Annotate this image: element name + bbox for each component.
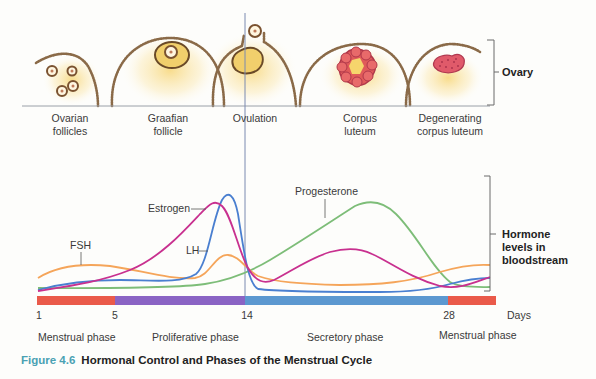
tick-day-5: 5 <box>112 309 118 321</box>
estrogen-label: Estrogen <box>148 202 190 215</box>
tick-day-14: 14 <box>241 309 253 321</box>
phase-bar-proliferative <box>115 296 245 305</box>
graafian-follicle <box>155 42 189 68</box>
stage-label-ovarian-follicles: Ovarian follicles <box>35 112 105 138</box>
hormone-levels-label: Hormone levels in bloodstream <box>502 228 568 267</box>
fsh-label: FSH <box>70 239 91 252</box>
stage-label-degenerating-corpus-luteum: Degenerating corpus luteum <box>408 112 492 138</box>
days-axis-label: Days <box>507 309 531 321</box>
stage-label-corpus-luteum: Corpus luteum <box>325 112 395 138</box>
phase-label-proliferative: Proliferative phase <box>152 331 239 344</box>
stage-label-ovulation: Ovulation <box>220 112 290 125</box>
phase-label-menstrual-1: Menstrual phase <box>38 331 116 344</box>
figure-caption: Figure 4.6Hormonal Control and Phases of… <box>21 354 372 366</box>
stage-label-graafian-follicle: Graafian follicle <box>133 112 203 138</box>
hormone-chart <box>38 195 490 292</box>
phase-bar-secretory <box>245 296 448 305</box>
tick-day-1: 1 <box>36 309 42 321</box>
phase-bar-menstrual-2 <box>448 296 496 305</box>
figure-title: Hormonal Control and Phases of the Menst… <box>81 354 372 366</box>
ovary-section <box>22 25 499 108</box>
progesterone-label: Progesterone <box>295 185 358 198</box>
hormone-bracket <box>484 176 496 291</box>
phase-label-secretory: Secretory phase <box>307 331 383 344</box>
progesterone-curve <box>38 202 490 288</box>
phase-label-menstrual-2: Menstrual phase <box>439 329 517 342</box>
ovary-label: Ovary <box>502 66 533 79</box>
tick-day-28: 28 <box>443 309 455 321</box>
phase-bar-menstrual-1 <box>37 296 115 305</box>
phase-bar <box>37 296 496 305</box>
figure-number: Figure 4.6 <box>21 354 75 366</box>
lh-label: LH <box>186 244 199 257</box>
ovary-bracket <box>487 40 499 105</box>
degenerating-corpus-luteum <box>433 54 464 72</box>
